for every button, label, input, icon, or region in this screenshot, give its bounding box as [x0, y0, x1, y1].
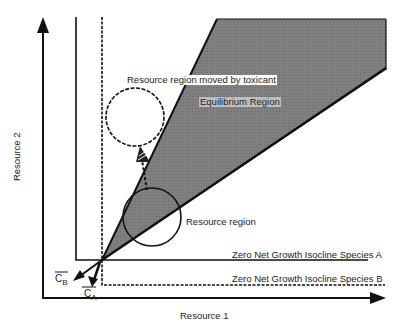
zngi-species-a-label: Zero Net Growth Isocline Species A [232, 250, 382, 260]
equilibrium-region-label: Equilibrium Region [199, 97, 281, 107]
x-axis-label: Resource 1 [180, 311, 229, 321]
zngi-species-b-label: Zero Net Growth Isocline Species B [232, 274, 382, 284]
resource-region-label: Resource region [186, 217, 256, 227]
ca-subscript: A [91, 293, 96, 302]
resource-region-moved-circle [106, 88, 164, 146]
x-axis-arrow-icon [370, 292, 386, 304]
resource-region-moved-label: Resource region moved by toxicant [126, 75, 277, 85]
ca-label: CA [84, 289, 97, 302]
cb-label: CB [55, 274, 68, 287]
y-axis-arrow-icon [37, 17, 49, 33]
y-axis-label: Resource 2 [12, 132, 22, 181]
cb-subscript: B [62, 278, 67, 287]
